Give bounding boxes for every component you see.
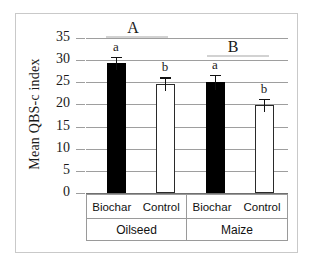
x-axis-treatment-row: Biochar Control Biochar Control <box>87 195 287 219</box>
y-tick-label-10: 10 <box>36 140 70 156</box>
error-bar-cap-top-2 <box>210 75 221 77</box>
y-tick-20 <box>76 104 85 105</box>
bar-oilseed-biochar <box>107 63 126 193</box>
significance-letter-3: b <box>253 81 275 97</box>
error-bar-1 <box>165 77 166 90</box>
error-bar-cap-top-0 <box>111 57 122 59</box>
y-tick-label-25: 25 <box>36 73 70 89</box>
y-tick-label-0: 0 <box>36 184 70 200</box>
x-axis-treatment-group-oilseed: Biochar Control <box>87 195 187 218</box>
x-label-oilseed-control: Control <box>137 201 187 213</box>
y-tick-label-15: 15 <box>36 118 70 134</box>
y-tick-label-20: 20 <box>36 95 70 111</box>
plot-area: 35302520151050 abab <box>86 38 288 193</box>
group-label-b: B <box>218 38 248 56</box>
group-label-a-rule <box>106 36 168 38</box>
x-label-crop-maize: Maize <box>221 223 253 237</box>
group-label-a: A <box>118 19 148 37</box>
x-label-maize-control: Control <box>237 201 287 213</box>
x-axis-treatment-group-maize: Biochar Control <box>187 195 287 218</box>
x-label-crop-oilseed: Oilseed <box>116 223 157 237</box>
y-tick-5 <box>76 171 85 172</box>
bar-maize-biochar <box>206 82 225 193</box>
error-bar-cap-top-3 <box>259 99 270 101</box>
x-label-oilseed-biochar: Biochar <box>87 201 137 213</box>
x-axis-crop-row: Oilseed Maize <box>87 219 287 241</box>
x-axis-label-table: Biochar Control Biochar Control Oilseed … <box>86 194 288 241</box>
y-tick-10 <box>76 149 85 150</box>
error-bar-cap-top-1 <box>160 77 171 79</box>
figure-bar-chart: Mean QBS-c index 35302520151050 abab A B… <box>0 0 315 267</box>
y-tick-0 <box>76 193 85 194</box>
significance-letter-2: a <box>204 57 226 73</box>
y-tick-25 <box>76 82 85 83</box>
error-bar-2 <box>215 75 216 90</box>
bar-oilseed-control <box>156 84 175 193</box>
x-axis-crop-group-maize: Maize <box>187 219 287 241</box>
error-bar-0 <box>116 57 117 70</box>
significance-letter-0: a <box>105 39 127 55</box>
y-tick-30 <box>76 60 85 61</box>
x-label-maize-biochar: Biochar <box>187 201 237 213</box>
y-tick-label-5: 5 <box>36 162 70 178</box>
y-tick-label-35: 35 <box>36 29 70 45</box>
x-axis-crop-group-oilseed: Oilseed <box>87 219 187 241</box>
y-tick-35 <box>76 38 85 39</box>
group-label-b-rule <box>207 55 269 57</box>
y-tick-15 <box>76 127 85 128</box>
error-bar-3 <box>264 99 265 112</box>
bar-maize-control <box>255 105 274 193</box>
y-tick-label-30: 30 <box>36 51 70 67</box>
significance-letter-1: b <box>154 59 176 75</box>
